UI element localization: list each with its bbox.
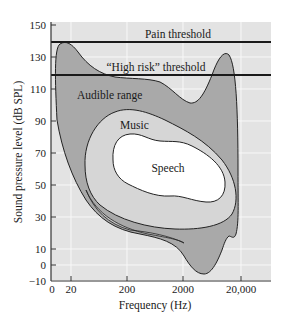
y-tick-minus10: −10 (29, 275, 47, 287)
y-tick-10: 10 (35, 243, 47, 255)
y-tick-0: 0 (41, 259, 47, 271)
pain-threshold-label: Pain threshold (145, 28, 211, 40)
sound-level-chart: 150 130 110 90 70 50 30 10 0 −10 0 20 20… (0, 0, 284, 326)
x-tick-20000: 20,000 (226, 283, 257, 295)
x-tick-200: 200 (119, 283, 136, 295)
audible-range-label: Audible range (77, 89, 142, 102)
x-tick-20: 20 (66, 283, 78, 295)
y-tick-130: 130 (30, 51, 47, 63)
y-tick-70: 70 (35, 147, 47, 159)
y-tick-110: 110 (30, 83, 47, 95)
music-label: Music (120, 119, 149, 131)
y-tick-30: 30 (35, 211, 47, 223)
high-risk-threshold-label: “High risk” threshold (106, 61, 205, 74)
y-tick-150: 150 (30, 19, 47, 31)
speech-label: Speech (151, 162, 184, 175)
x-tick-0: 0 (49, 283, 55, 295)
x-tick-2000: 2000 (172, 283, 195, 295)
y-tick-50: 50 (35, 179, 47, 191)
y-axis-title: Sound pressure level (dB SPL) (12, 81, 25, 224)
x-axis-title: Frequency (Hz) (119, 299, 192, 312)
y-tick-90: 90 (35, 115, 47, 127)
